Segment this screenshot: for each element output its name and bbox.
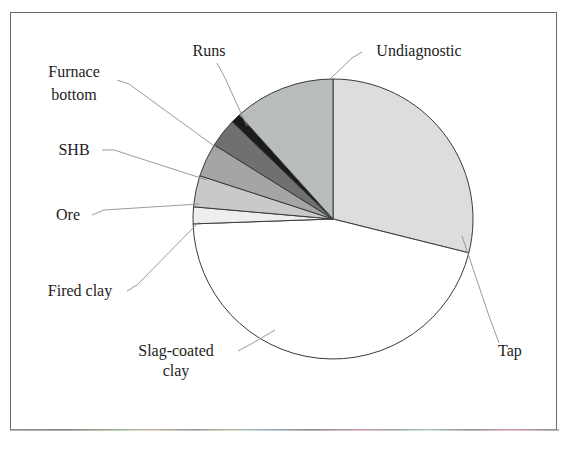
slice-label-tap: Tap [498, 342, 522, 360]
leader-line-shb [102, 150, 207, 180]
figure-container: TapSlag-coatedclayFired clayOreSHBFurnac… [0, 0, 575, 452]
leader-line-runs [217, 63, 247, 126]
leader-line-furnace-bottom [117, 80, 221, 151]
leader-line-tap [462, 236, 499, 343]
pie-chart: TapSlag-coatedclayFired clayOreSHBFurnac… [0, 0, 575, 452]
slice-label-ore: Ore [56, 206, 80, 223]
leader-line-undiagnostic [330, 52, 362, 79]
slice-label-shb: SHB [58, 141, 89, 158]
slice-label-slag-coated-clay-line2: clay [163, 362, 190, 380]
slice-label-furnace-bottom-line2: bottom [51, 86, 97, 103]
leader-line-ore [92, 204, 199, 215]
pie-slices-group [193, 79, 473, 359]
slice-label-undiagnostic: Undiagnostic [376, 42, 461, 60]
slice-label-slag-coated-clay: Slag-coated [138, 342, 214, 360]
leader-line-fired-clay [127, 222, 199, 291]
slice-label-furnace-bottom: Furnace [48, 63, 100, 80]
slice-label-fired-clay: Fired clay [48, 282, 112, 300]
slice-label-runs: Runs [193, 42, 226, 59]
